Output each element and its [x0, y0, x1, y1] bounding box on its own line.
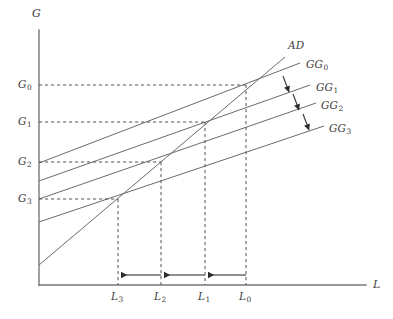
economics-diagram-figure: G L G0 G1 G2 G3 L3 L2 L1 L0 AD GG0 GG1 G…	[0, 0, 393, 319]
curve-ad	[39, 57, 285, 265]
curve-label-gg0: GG0	[306, 59, 328, 70]
x-tick-label-l1: L1	[198, 291, 210, 302]
y-tick-label-g2: G2	[18, 156, 32, 167]
gg-curves-group	[39, 63, 324, 222]
x-tick-label-l0: L0	[239, 291, 251, 302]
shift-arrow-gg1-gg2	[293, 94, 299, 110]
y-tick-label-g1: G1	[18, 116, 32, 127]
curve-label-ad: AD	[288, 40, 304, 51]
shift-arrows-group	[283, 76, 309, 130]
curve-label-gg1: GG1	[316, 82, 338, 93]
curve-gg1	[39, 85, 310, 181]
y-tick-label-g3: G3	[18, 193, 32, 204]
y-axis-title: G	[32, 8, 41, 19]
y-tick-label-g0: G0	[18, 79, 32, 90]
x-axis-title: L	[373, 279, 381, 290]
x-tick-label-l3: L3	[111, 291, 123, 302]
curve-label-gg2: GG2	[321, 100, 343, 111]
shift-arrow-gg0-gg1	[283, 76, 289, 92]
diagram-canvas	[0, 0, 393, 319]
guide-lines-group	[39, 85, 246, 285]
ad-curve-group	[39, 57, 285, 265]
shift-arrow-gg2-gg3	[303, 114, 309, 130]
curve-label-gg3: GG3	[329, 123, 351, 134]
curve-gg2	[39, 103, 316, 199]
curve-gg3	[39, 126, 324, 222]
x-tick-label-l2: L2	[154, 291, 166, 302]
